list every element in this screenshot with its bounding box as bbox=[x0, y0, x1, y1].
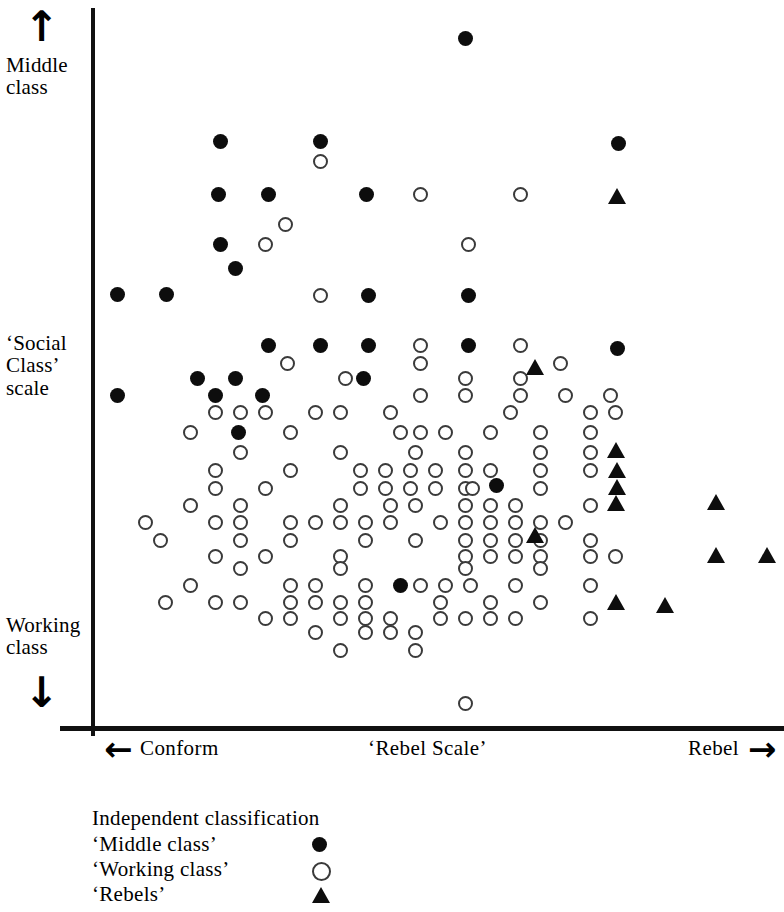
data-point-open-circle bbox=[483, 611, 498, 626]
data-point-open-circle bbox=[503, 405, 518, 420]
data-point-open-circle bbox=[533, 561, 548, 576]
data-point-open-circle bbox=[458, 533, 473, 548]
data-point-open-circle bbox=[438, 578, 453, 593]
data-point-triangle bbox=[608, 188, 626, 204]
data-point-open-circle bbox=[208, 549, 223, 564]
data-point-open-circle bbox=[463, 578, 478, 593]
x-axis-line bbox=[60, 726, 784, 731]
arrow-down-icon: ↓ bbox=[24, 672, 59, 714]
x-axis-label-center: ‘Rebel Scale’ bbox=[368, 736, 487, 761]
data-point-filled-circle bbox=[489, 478, 504, 493]
data-point-open-circle bbox=[358, 533, 373, 548]
data-point-filled-circle bbox=[190, 371, 205, 386]
y-axis-label-bottom: Working class bbox=[6, 614, 80, 659]
data-point-filled-circle bbox=[361, 288, 376, 303]
data-point-open-circle bbox=[583, 463, 598, 478]
data-point-open-circle bbox=[533, 425, 548, 440]
legend: Independent classification ‘Middle class… bbox=[92, 806, 492, 907]
x-axis-label-right: Rebel bbox=[688, 736, 739, 761]
data-point-open-circle bbox=[508, 515, 523, 530]
data-point-open-circle bbox=[258, 611, 273, 626]
data-point-filled-circle bbox=[228, 371, 243, 386]
data-point-open-circle bbox=[458, 515, 473, 530]
data-point-open-circle bbox=[383, 405, 398, 420]
data-point-open-circle bbox=[465, 481, 480, 496]
data-point-open-circle bbox=[483, 515, 498, 530]
data-point-filled-circle bbox=[458, 31, 473, 46]
data-point-filled-circle bbox=[261, 338, 276, 353]
legend-marker-filled-circle-icon bbox=[312, 837, 327, 852]
data-point-triangle bbox=[526, 527, 544, 543]
legend-item-middle-class: ‘Middle class’ bbox=[92, 832, 492, 857]
data-point-triangle bbox=[707, 494, 725, 510]
data-point-filled-circle bbox=[159, 287, 174, 302]
data-point-open-circle bbox=[553, 356, 568, 371]
data-point-filled-circle bbox=[208, 388, 223, 403]
data-point-triangle bbox=[608, 479, 626, 495]
data-point-open-circle bbox=[308, 595, 323, 610]
data-point-filled-circle bbox=[110, 287, 125, 302]
data-point-open-circle bbox=[383, 515, 398, 530]
data-point-open-circle bbox=[280, 356, 295, 371]
data-point-open-circle bbox=[483, 549, 498, 564]
data-point-open-circle bbox=[233, 595, 248, 610]
data-point-open-circle bbox=[283, 533, 298, 548]
data-point-open-circle bbox=[333, 445, 348, 460]
data-point-triangle bbox=[707, 547, 725, 563]
data-point-open-circle bbox=[233, 515, 248, 530]
data-point-open-circle bbox=[258, 237, 273, 252]
data-point-open-circle bbox=[358, 578, 373, 593]
data-point-open-circle bbox=[413, 356, 428, 371]
data-point-open-circle bbox=[153, 533, 168, 548]
data-point-open-circle bbox=[158, 595, 173, 610]
data-point-open-circle bbox=[308, 515, 323, 530]
data-point-open-circle bbox=[283, 515, 298, 530]
data-point-open-circle bbox=[208, 405, 223, 420]
data-point-open-circle bbox=[413, 187, 428, 202]
data-point-open-circle bbox=[338, 371, 353, 386]
data-point-open-circle bbox=[583, 498, 598, 513]
data-point-open-circle bbox=[583, 445, 598, 460]
arrow-right-icon: → bbox=[748, 732, 777, 766]
data-point-open-circle bbox=[308, 578, 323, 593]
data-point-open-circle bbox=[458, 561, 473, 576]
data-point-open-circle bbox=[233, 498, 248, 513]
legend-label-rebels: ‘Rebels’ bbox=[92, 882, 166, 907]
y-axis-line bbox=[91, 8, 95, 736]
data-point-open-circle bbox=[233, 445, 248, 460]
data-point-open-circle bbox=[483, 463, 498, 478]
legend-label-middle-class: ‘Middle class’ bbox=[92, 832, 217, 857]
data-point-open-circle bbox=[283, 425, 298, 440]
data-point-open-circle bbox=[313, 288, 328, 303]
data-point-open-circle bbox=[428, 463, 443, 478]
data-point-open-circle bbox=[458, 371, 473, 386]
data-point-open-circle bbox=[508, 533, 523, 548]
data-point-open-circle bbox=[208, 463, 223, 478]
data-point-triangle bbox=[608, 462, 626, 478]
data-point-filled-circle bbox=[361, 338, 376, 353]
data-point-open-circle bbox=[333, 561, 348, 576]
data-point-filled-circle bbox=[313, 134, 328, 149]
data-point-filled-circle bbox=[359, 187, 374, 202]
data-point-open-circle bbox=[233, 533, 248, 548]
data-point-open-circle bbox=[333, 595, 348, 610]
data-point-open-circle bbox=[583, 611, 598, 626]
data-point-open-circle bbox=[583, 578, 598, 593]
data-point-open-circle bbox=[333, 405, 348, 420]
data-point-open-circle bbox=[458, 445, 473, 460]
data-point-open-circle bbox=[558, 515, 573, 530]
data-point-filled-circle bbox=[228, 261, 243, 276]
data-point-open-circle bbox=[258, 481, 273, 496]
data-point-open-circle bbox=[383, 498, 398, 513]
data-point-open-circle bbox=[583, 533, 598, 548]
data-point-filled-circle bbox=[211, 187, 226, 202]
data-point-open-circle bbox=[308, 625, 323, 640]
data-point-open-circle bbox=[533, 481, 548, 496]
data-point-open-circle bbox=[308, 405, 323, 420]
data-point-filled-circle bbox=[213, 134, 228, 149]
data-point-triangle bbox=[607, 495, 625, 511]
data-point-open-circle bbox=[208, 481, 223, 496]
data-point-open-circle bbox=[408, 445, 423, 460]
data-point-open-circle bbox=[353, 481, 368, 496]
legend-item-rebels: ‘Rebels’ bbox=[92, 882, 492, 907]
